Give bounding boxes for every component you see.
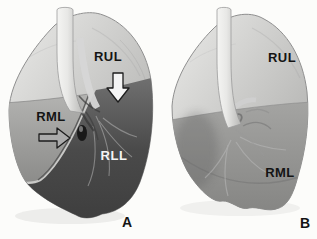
figure-canvas: RUL RML RLL A bbox=[0, 0, 317, 239]
lung-figure: RUL RML RLL A bbox=[0, 0, 317, 239]
label-rul-a: RUL bbox=[94, 49, 122, 64]
lung-render-a bbox=[4, 7, 155, 239]
panel-letter-b: B bbox=[300, 215, 310, 231]
label-rll-a: RLL bbox=[101, 148, 128, 163]
cardiac-shadow bbox=[174, 112, 218, 188]
label-rml-b: RML bbox=[265, 165, 295, 180]
lesion-highlight bbox=[79, 126, 83, 132]
label-rul-b: RUL bbox=[268, 50, 296, 65]
panel-letter-a: A bbox=[122, 214, 132, 230]
label-rml-a: RML bbox=[36, 109, 66, 124]
